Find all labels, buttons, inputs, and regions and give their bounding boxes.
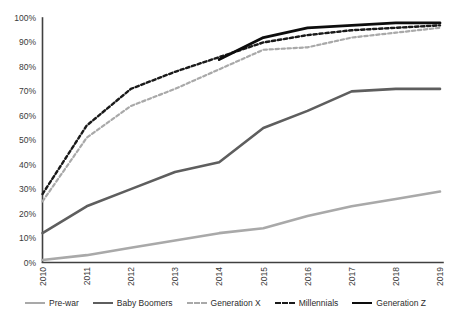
legend-swatch-icon <box>275 302 295 304</box>
legend-item-generation-x[interactable]: Generation X <box>187 298 261 308</box>
x-tick-label: 2016 <box>303 267 313 286</box>
legend-swatch-icon <box>25 302 45 304</box>
y-tick-label: 70% <box>19 86 36 96</box>
legend-item-millennials[interactable]: Millennials <box>275 298 339 308</box>
y-tick-label: 30% <box>19 184 36 194</box>
x-tick-label: 2014 <box>214 267 224 286</box>
legend-swatch-icon <box>352 302 372 304</box>
y-tick-label: 10% <box>19 233 36 243</box>
legend-label: Generation X <box>211 298 261 308</box>
legend-swatch-icon <box>93 302 113 304</box>
y-tick-label: 60% <box>19 111 36 121</box>
x-tick-label: 2017 <box>347 267 357 286</box>
x-tick-label: 2011 <box>82 267 92 286</box>
x-tick-label: 2018 <box>391 267 401 286</box>
line-chart: 0%10%20%30%40%50%60%70%80%90%100% 201020… <box>0 0 451 316</box>
series-lines <box>43 23 441 260</box>
chart-legend: Pre-warBaby BoomersGeneration XMillennia… <box>0 292 451 314</box>
y-tick-label: 100% <box>14 13 36 23</box>
plot-area: 0%10%20%30%40%50%60%70%80%90%100% 201020… <box>0 0 451 290</box>
axis-lines <box>43 18 444 263</box>
x-tick-label: 2013 <box>170 267 180 286</box>
x-axis-tick-labels: 2010201120122013201420152016201720182019 <box>38 267 446 286</box>
legend-item-pre-war[interactable]: Pre-war <box>25 298 79 308</box>
x-tick-label: 2010 <box>38 267 48 286</box>
legend-item-baby-boomers[interactable]: Baby Boomers <box>93 298 173 308</box>
series-line-baby-boomers <box>43 89 441 233</box>
chart-svg: 0%10%20%30%40%50%60%70%80%90%100% 201020… <box>0 0 451 290</box>
x-tick-label: 2012 <box>126 267 136 286</box>
y-tick-label: 0% <box>24 258 37 268</box>
series-line-pre-war <box>43 192 441 260</box>
y-tick-label: 90% <box>19 37 36 47</box>
x-tick-label: 2015 <box>259 267 269 286</box>
series-line-millennials <box>43 25 441 194</box>
legend-label: Pre-war <box>49 298 79 308</box>
legend-label: Generation Z <box>376 298 426 308</box>
y-tick-label: 40% <box>19 160 36 170</box>
series-line-generation-x <box>43 28 441 202</box>
y-tick-label: 50% <box>19 135 36 145</box>
legend-label: Baby Boomers <box>117 298 173 308</box>
legend-swatch-icon <box>187 302 207 304</box>
x-tick-label: 2019 <box>435 267 445 286</box>
y-tick-label: 80% <box>19 62 36 72</box>
legend-item-generation-z[interactable]: Generation Z <box>352 298 426 308</box>
legend-label: Millennials <box>299 298 339 308</box>
y-tick-label: 20% <box>19 209 36 219</box>
y-axis-tick-labels: 0%10%20%30%40%50%60%70%80%90%100% <box>14 13 36 268</box>
